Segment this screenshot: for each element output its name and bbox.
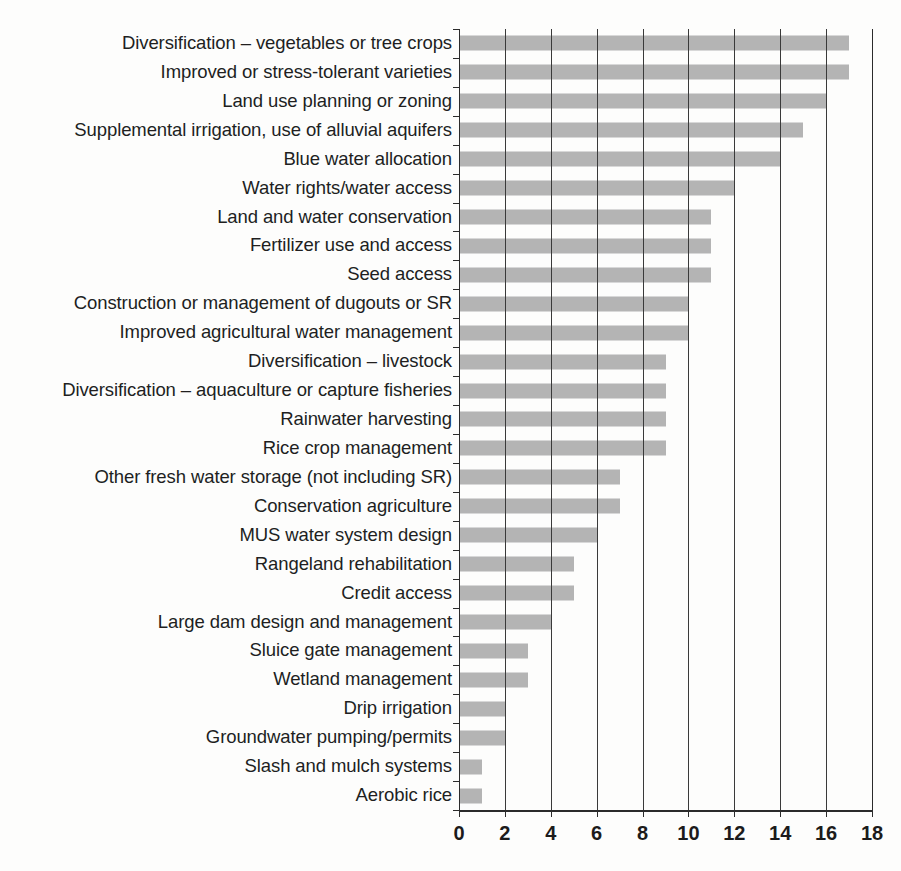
- bar-row: [459, 492, 872, 521]
- bar-rows: [459, 29, 872, 810]
- bar: [459, 586, 574, 601]
- category-label: Fertilizer use and access: [250, 231, 452, 260]
- bar-row: [459, 608, 872, 637]
- x-axis-tick-label: 10: [668, 822, 708, 845]
- category-label: Land use planning or zoning: [222, 87, 452, 116]
- category-label: Drip irrigation: [343, 694, 452, 723]
- bar: [459, 296, 688, 311]
- x-axis-tick-label: 4: [531, 822, 571, 845]
- category-label: Wetland management: [273, 665, 452, 694]
- gridline-6: [597, 29, 598, 810]
- bar: [459, 528, 597, 543]
- x-axis-tick-label: 16: [806, 822, 846, 845]
- category-label: Improved or stress-tolerant varieties: [161, 58, 452, 87]
- category-label: Supplemental irrigation, use of alluvial…: [74, 116, 452, 145]
- bar-row: [459, 550, 872, 579]
- bar: [459, 701, 505, 716]
- category-label: Other fresh water storage (not including…: [94, 463, 452, 492]
- bar-row: [459, 405, 872, 434]
- category-label: Sluice gate management: [250, 636, 452, 665]
- bar-row: [459, 636, 872, 665]
- bar: [459, 672, 528, 687]
- bar-row: [459, 752, 872, 781]
- x-axis-tick-4: [551, 810, 552, 817]
- x-axis-line: [459, 810, 873, 812]
- category-label: Aerobic rice: [356, 781, 452, 810]
- x-axis-tick-6: [597, 810, 598, 817]
- bar-row: [459, 579, 872, 608]
- bar-row: [459, 203, 872, 232]
- bar: [459, 499, 620, 514]
- gridline-16: [826, 29, 827, 810]
- x-axis-tick-16: [826, 810, 827, 817]
- bar: [459, 383, 666, 398]
- bar-row: [459, 174, 872, 203]
- bar-row: [459, 463, 872, 492]
- bar-row: [459, 318, 872, 347]
- bar: [459, 354, 666, 369]
- category-label: Slash and mulch systems: [245, 752, 452, 781]
- category-label: Conservation agriculture: [254, 492, 452, 521]
- x-axis-tick-label: 8: [623, 822, 663, 845]
- gridline-18: [872, 29, 873, 810]
- category-label: Diversification – livestock: [248, 347, 452, 376]
- x-axis-tick-0: [459, 810, 460, 817]
- category-label: Blue water allocation: [283, 145, 452, 174]
- x-axis-tick-2: [505, 810, 506, 817]
- bar-row: [459, 723, 872, 752]
- x-axis-tick-10: [688, 810, 689, 817]
- bar: [459, 730, 505, 745]
- bar-row: [459, 145, 872, 174]
- bar-row: [459, 231, 872, 260]
- bar-row: [459, 781, 872, 810]
- x-axis-tick-label: 6: [577, 822, 617, 845]
- bar: [459, 65, 849, 80]
- x-axis-tick-label: 0: [439, 822, 479, 845]
- gridline-4: [551, 29, 552, 810]
- bar: [459, 267, 711, 282]
- x-axis-tick-label: 14: [760, 822, 800, 845]
- category-label: Land and water conservation: [217, 203, 452, 232]
- category-label: Diversification – aquaculture or capture…: [62, 376, 452, 405]
- category-label: Rainwater harvesting: [280, 405, 452, 434]
- bar: [459, 123, 803, 138]
- bar-row: [459, 434, 872, 463]
- bar: [459, 557, 574, 572]
- bar-row: [459, 58, 872, 87]
- x-axis-tick-label: 18: [852, 822, 892, 845]
- bar: [459, 788, 482, 803]
- x-axis-tick-8: [643, 810, 644, 817]
- bar: [459, 412, 666, 427]
- bar-row: [459, 694, 872, 723]
- bar: [459, 36, 849, 51]
- bar: [459, 441, 666, 456]
- gridline-2: [505, 29, 506, 810]
- bar-row: [459, 347, 872, 376]
- category-label: Construction or management of dugouts or…: [74, 289, 452, 318]
- bar: [459, 152, 780, 167]
- gridline-0: [459, 29, 460, 810]
- bar-row: [459, 376, 872, 405]
- category-axis-labels: Diversification – vegetables or tree cro…: [0, 29, 452, 810]
- x-axis-tick-label: 12: [714, 822, 754, 845]
- bar-row: [459, 521, 872, 550]
- x-axis-tick-18: [872, 810, 873, 817]
- bar: [459, 759, 482, 774]
- category-label: MUS water system design: [239, 521, 452, 550]
- category-label: Water rights/water access: [242, 174, 452, 203]
- bar: [459, 238, 711, 253]
- gridline-10: [688, 29, 689, 810]
- x-axis-tick-14: [780, 810, 781, 817]
- bar: [459, 470, 620, 485]
- category-label: Rice crop management: [263, 434, 452, 463]
- plot-area: [459, 29, 872, 810]
- bar-row: [459, 29, 872, 58]
- category-label: Seed access: [347, 260, 452, 289]
- gridline-12: [734, 29, 735, 810]
- bar-row: [459, 87, 872, 116]
- x-axis-tick-12: [734, 810, 735, 817]
- bar: [459, 210, 711, 225]
- gridline-14: [780, 29, 781, 810]
- bar-row: [459, 665, 872, 694]
- gridline-8: [643, 29, 644, 810]
